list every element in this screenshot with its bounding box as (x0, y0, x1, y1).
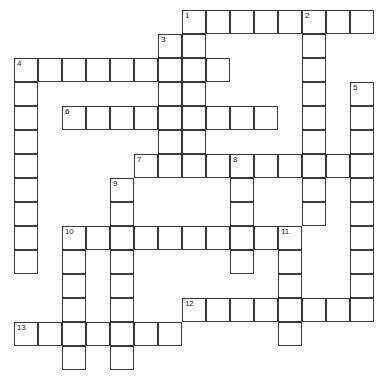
crossword-cell[interactable]: 5 (350, 82, 374, 106)
crossword-cell[interactable]: 12 (182, 298, 206, 322)
crossword-cell[interactable] (254, 106, 278, 130)
crossword-cell[interactable] (206, 58, 230, 82)
crossword-cell[interactable] (158, 226, 182, 250)
crossword-cell[interactable] (158, 322, 182, 346)
crossword-cell[interactable] (14, 250, 38, 274)
crossword-cell[interactable] (302, 154, 326, 178)
crossword-cell[interactable] (254, 298, 278, 322)
crossword-cell[interactable] (206, 226, 230, 250)
crossword-cell[interactable] (182, 130, 206, 154)
crossword-cell[interactable] (110, 58, 134, 82)
crossword-cell[interactable]: 11 (278, 226, 302, 250)
crossword-cell[interactable] (158, 106, 182, 130)
crossword-cell[interactable] (350, 154, 374, 178)
crossword-cell[interactable] (302, 34, 326, 58)
crossword-cell[interactable] (62, 298, 86, 322)
crossword-cell[interactable] (62, 274, 86, 298)
crossword-cell[interactable] (62, 322, 86, 346)
crossword-cell[interactable] (182, 226, 206, 250)
crossword-cell[interactable] (158, 154, 182, 178)
crossword-cell[interactable] (182, 106, 206, 130)
crossword-cell[interactable] (350, 10, 374, 34)
crossword-cell[interactable] (230, 298, 254, 322)
crossword-cell[interactable] (206, 154, 230, 178)
crossword-cell[interactable] (206, 10, 230, 34)
crossword-cell[interactable] (302, 58, 326, 82)
crossword-cell[interactable] (110, 346, 134, 370)
crossword-cell[interactable] (230, 10, 254, 34)
crossword-cell[interactable]: 1 (182, 10, 206, 34)
crossword-cell[interactable] (38, 322, 62, 346)
crossword-cell[interactable] (350, 202, 374, 226)
crossword-grid[interactable]: 12345678910111213 (0, 0, 383, 378)
crossword-cell[interactable]: 3 (158, 34, 182, 58)
crossword-cell[interactable] (110, 250, 134, 274)
crossword-cell[interactable] (230, 178, 254, 202)
crossword-cell[interactable] (230, 250, 254, 274)
crossword-cell[interactable] (254, 154, 278, 178)
crossword-cell[interactable] (278, 298, 302, 322)
crossword-cell[interactable] (302, 298, 326, 322)
crossword-cell[interactable] (302, 202, 326, 226)
crossword-cell[interactable]: 4 (14, 58, 38, 82)
crossword-cell[interactable] (350, 178, 374, 202)
crossword-cell[interactable] (110, 226, 134, 250)
crossword-cell[interactable] (110, 322, 134, 346)
crossword-cell[interactable] (230, 226, 254, 250)
crossword-cell[interactable] (278, 322, 302, 346)
crossword-cell[interactable] (206, 298, 230, 322)
crossword-cell[interactable] (182, 58, 206, 82)
crossword-cell[interactable] (182, 34, 206, 58)
crossword-cell[interactable] (38, 58, 62, 82)
crossword-cell[interactable] (134, 106, 158, 130)
crossword-cell[interactable] (14, 82, 38, 106)
crossword-cell[interactable] (110, 106, 134, 130)
crossword-cell[interactable] (278, 10, 302, 34)
crossword-cell[interactable] (86, 226, 110, 250)
crossword-cell[interactable] (14, 106, 38, 130)
crossword-cell[interactable] (254, 10, 278, 34)
crossword-cell[interactable] (302, 178, 326, 202)
crossword-cell[interactable] (350, 274, 374, 298)
crossword-cell[interactable] (86, 106, 110, 130)
crossword-cell[interactable] (206, 106, 230, 130)
crossword-cell[interactable] (14, 202, 38, 226)
crossword-cell[interactable] (14, 226, 38, 250)
crossword-cell[interactable] (14, 178, 38, 202)
crossword-cell[interactable]: 13 (14, 322, 38, 346)
crossword-cell[interactable] (62, 346, 86, 370)
crossword-cell[interactable]: 2 (302, 10, 326, 34)
crossword-cell[interactable] (350, 130, 374, 154)
crossword-cell[interactable]: 7 (134, 154, 158, 178)
crossword-cell[interactable] (134, 58, 158, 82)
crossword-cell[interactable] (158, 130, 182, 154)
crossword-cell[interactable] (302, 130, 326, 154)
crossword-cell[interactable] (326, 154, 350, 178)
crossword-cell[interactable] (302, 82, 326, 106)
crossword-cell[interactable] (326, 298, 350, 322)
crossword-cell[interactable] (182, 82, 206, 106)
crossword-cell[interactable] (110, 274, 134, 298)
crossword-cell[interactable] (350, 226, 374, 250)
crossword-cell[interactable] (110, 202, 134, 226)
crossword-cell[interactable] (86, 322, 110, 346)
crossword-cell[interactable] (350, 250, 374, 274)
crossword-cell[interactable] (110, 298, 134, 322)
crossword-cell[interactable]: 6 (62, 106, 86, 130)
crossword-cell[interactable]: 9 (110, 178, 134, 202)
crossword-cell[interactable] (350, 106, 374, 130)
crossword-cell[interactable] (62, 250, 86, 274)
crossword-cell[interactable] (182, 154, 206, 178)
crossword-cell[interactable] (134, 322, 158, 346)
crossword-cell[interactable] (86, 58, 110, 82)
crossword-cell[interactable] (14, 130, 38, 154)
crossword-cell[interactable] (278, 154, 302, 178)
crossword-cell[interactable] (278, 274, 302, 298)
crossword-cell[interactable] (158, 58, 182, 82)
crossword-cell[interactable] (302, 106, 326, 130)
crossword-cell[interactable] (254, 226, 278, 250)
crossword-cell[interactable] (62, 58, 86, 82)
crossword-cell[interactable] (278, 250, 302, 274)
crossword-cell[interactable]: 8 (230, 154, 254, 178)
crossword-cell[interactable]: 10 (62, 226, 86, 250)
